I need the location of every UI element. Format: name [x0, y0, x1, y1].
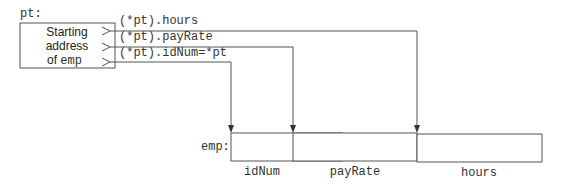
pointer-struct-diagram: pt: Starting address of emp (*pt).hours … — [0, 0, 562, 185]
pointer-box-line-1: Starting — [46, 25, 87, 39]
arrowhead-icons — [228, 125, 420, 133]
struct-label: emp: — [201, 140, 230, 154]
arrowhead-icon-idnum — [228, 125, 234, 133]
arrowhead-icon-hours — [414, 125, 420, 133]
struct-box — [231, 133, 542, 162]
field-label-payrate: payRate — [330, 165, 380, 179]
connector-idnum — [110, 62, 231, 127]
pointer-label: pt: — [20, 7, 42, 21]
arrowhead-icon-payrate — [290, 125, 296, 133]
pointer-box-line-2: address — [46, 39, 89, 53]
field-cell-hours — [417, 134, 542, 162]
accessor-label-idnum: (*pt).idNum=*pt — [119, 46, 227, 60]
accessor-label-hours: (*pt).hours — [119, 14, 198, 28]
field-cell-payrate — [293, 133, 417, 161]
accessor-label-payrate: (*pt).payRate — [119, 30, 213, 44]
pointer-box-line-3: of emp — [47, 53, 82, 68]
field-label-hours: hours — [461, 166, 497, 180]
field-label-idnum: idNum — [244, 165, 280, 179]
